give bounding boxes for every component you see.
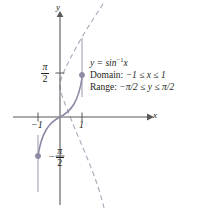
domain-line: Domain: −1 ≤ x ≤ 1	[90, 69, 174, 81]
range-value: −π/2 ≤ y ≤ π/2	[119, 82, 174, 92]
arcsine-graph-figure: y x −1 1 π 2 − π 2 y = sin−1x Domain: −1…	[0, 0, 201, 214]
point-marker-1-pi-over-2	[79, 72, 84, 77]
y-axis-label: y	[56, 3, 60, 12]
y-axis	[57, 11, 64, 205]
range-line: Range: −π/2 ≤ y ≤ π/2	[90, 81, 174, 93]
fraction-denominator: 2	[56, 158, 63, 169]
x-axis-label: x	[153, 111, 157, 120]
equation-lhs: y = sin	[90, 58, 116, 68]
annotation-block: y = sin−1x Domain: −1 ≤ x ≤ 1 Range: −π/…	[90, 54, 174, 93]
dashed-sine-curve	[60, 2, 104, 208]
equation-line: y = sin−1x	[90, 54, 174, 69]
fraction-denominator: 2	[42, 74, 49, 85]
equation-rhs: x	[123, 58, 127, 68]
fraction-stack: π 2	[56, 146, 64, 168]
range-key: Range:	[90, 82, 117, 92]
domain-key: Domain:	[90, 70, 123, 80]
plot-canvas	[0, 0, 201, 214]
fraction-numerator: π	[56, 146, 63, 157]
domain-value: −1 ≤ x ≤ 1	[126, 70, 166, 80]
fraction-numerator: π	[41, 62, 48, 73]
fraction-stack: π 2	[41, 62, 49, 84]
y-tick-label-pi-over-2: π 2	[40, 62, 49, 84]
x-tick-label-neg1: −1	[31, 120, 43, 130]
x-tick-label-pos1: 1	[79, 120, 84, 130]
y-tick-label-neg-pi-over-2: − π 2	[49, 146, 64, 168]
point-marker-neg1-neg-pi-over-2	[35, 153, 40, 158]
neg-pi-over-2-sign: −	[49, 152, 55, 162]
